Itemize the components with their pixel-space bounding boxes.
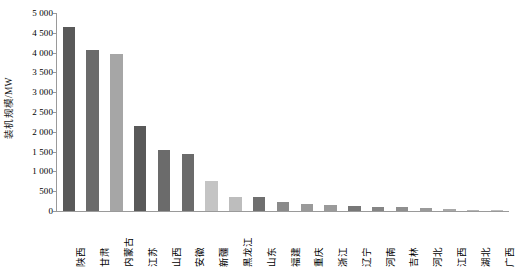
bar bbox=[63, 27, 75, 211]
x-axis-tick-label: 江西 bbox=[454, 213, 468, 267]
bar bbox=[110, 54, 122, 211]
y-axis-tick-mark bbox=[53, 171, 57, 172]
x-axis-tick-label: 辽宁 bbox=[359, 213, 373, 267]
x-axis-tick-label: 山东 bbox=[264, 213, 278, 267]
y-axis-tick-label: 2 000 bbox=[32, 127, 53, 136]
y-axis-tick-label: 4 500 bbox=[32, 28, 53, 37]
bar bbox=[491, 210, 503, 211]
bar bbox=[348, 206, 360, 211]
x-axis-tick-labels: 陕西甘肃内蒙古江苏山西安徽新疆黑龙江山东福建重庆浙江辽宁河南吉林河北江西湖北广西 bbox=[57, 213, 509, 268]
y-axis-tick-labels: 05001 0001 5002 0002 5003 0003 5004 0004… bbox=[16, 0, 56, 215]
bar bbox=[324, 205, 336, 211]
y-axis-tick-mark bbox=[53, 132, 57, 133]
y-axis-tick-mark bbox=[53, 13, 57, 14]
y-axis-tick-label: 3 500 bbox=[32, 68, 53, 77]
y-axis-tick-label: 1 500 bbox=[32, 147, 53, 156]
bar bbox=[467, 210, 479, 211]
bar bbox=[86, 50, 98, 211]
y-axis-tick-mark bbox=[53, 112, 57, 113]
bar-series bbox=[57, 13, 509, 211]
bar bbox=[277, 202, 289, 211]
bar bbox=[229, 197, 241, 211]
y-axis-tick-mark bbox=[53, 72, 57, 73]
x-axis-tick-label: 新疆 bbox=[216, 213, 230, 267]
y-axis-tick-mark bbox=[53, 152, 57, 153]
plot-area bbox=[57, 13, 509, 211]
x-axis-tick-label: 江苏 bbox=[145, 213, 159, 267]
x-axis-tick-label: 浙江 bbox=[335, 213, 349, 267]
y-axis-tick-label: 4 000 bbox=[32, 48, 53, 57]
y-axis-tick-mark bbox=[53, 33, 57, 34]
y-axis-tick-mark bbox=[53, 191, 57, 192]
x-axis-tick-label: 河南 bbox=[383, 213, 397, 267]
y-axis-tick-mark bbox=[53, 211, 57, 212]
y-axis-title-text: 装机规模/MW bbox=[1, 77, 15, 138]
y-axis-tick-mark bbox=[53, 92, 57, 93]
x-axis-tick-label: 河北 bbox=[430, 213, 444, 267]
bar bbox=[420, 208, 432, 211]
bar bbox=[396, 207, 408, 211]
y-axis-tick-label: 3 000 bbox=[32, 88, 53, 97]
x-axis-tick-label: 陕西 bbox=[73, 213, 87, 267]
y-axis-title: 装机规模/MW bbox=[0, 0, 16, 215]
x-axis-tick-label: 吉林 bbox=[406, 213, 420, 267]
bar bbox=[134, 126, 146, 211]
x-axis-tick-label: 安徽 bbox=[192, 213, 206, 267]
x-axis-tick-label: 广西 bbox=[502, 213, 516, 267]
y-axis-tick-label: 1 000 bbox=[32, 167, 53, 176]
bar bbox=[301, 204, 313, 211]
y-axis-tick-label: 500 bbox=[39, 187, 53, 196]
y-axis-tick-mark bbox=[53, 53, 57, 54]
x-axis-tick-label: 湖北 bbox=[478, 213, 492, 267]
x-axis-tick-label: 内蒙古 bbox=[121, 213, 135, 267]
bar bbox=[205, 181, 217, 211]
x-axis-line bbox=[56, 211, 509, 212]
x-axis-tick-label: 黑龙江 bbox=[240, 213, 254, 267]
bar bbox=[372, 207, 384, 211]
x-axis-tick-label: 福建 bbox=[288, 213, 302, 267]
bar bbox=[182, 154, 194, 211]
y-axis-tick-label: 5 000 bbox=[32, 9, 53, 18]
bar bbox=[158, 150, 170, 211]
x-axis-tick-label: 山西 bbox=[169, 213, 183, 267]
x-axis-tick-label: 甘肃 bbox=[97, 213, 111, 267]
x-axis-tick-label: 重庆 bbox=[311, 213, 325, 267]
bar bbox=[253, 197, 265, 211]
y-axis-tick-label: 2 500 bbox=[32, 108, 53, 117]
bar bbox=[443, 209, 455, 211]
